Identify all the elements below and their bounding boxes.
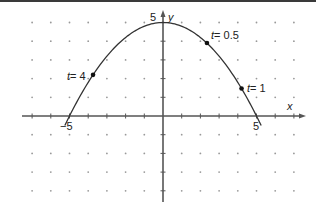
x-tick-label-neg5: −5 bbox=[60, 120, 73, 132]
t4-rest: = 4 bbox=[70, 70, 86, 82]
grid-dot bbox=[256, 171, 258, 173]
grid-dot bbox=[218, 134, 220, 136]
grid-dot bbox=[50, 190, 52, 192]
grid-dot bbox=[31, 171, 33, 173]
grid-dot bbox=[181, 134, 183, 136]
grid-dot bbox=[181, 153, 183, 155]
grid-dot bbox=[125, 22, 127, 24]
grid-dot bbox=[125, 59, 127, 61]
grid-dot bbox=[31, 59, 33, 61]
grid-dot bbox=[87, 78, 89, 80]
grid-dot bbox=[106, 22, 108, 24]
grid-dot bbox=[237, 153, 239, 155]
grid-dot bbox=[200, 96, 202, 98]
grid-dot bbox=[274, 22, 276, 24]
grid-dot bbox=[200, 153, 202, 155]
grid-dot bbox=[125, 96, 127, 98]
grid-dot bbox=[181, 59, 183, 61]
grid-dot bbox=[218, 78, 220, 80]
point-label-t4: t= 4 bbox=[67, 70, 86, 82]
grid-dot bbox=[50, 153, 52, 155]
grid-dot bbox=[106, 134, 108, 136]
grid-dot bbox=[50, 40, 52, 42]
grid-dot bbox=[200, 59, 202, 61]
grid-dot bbox=[106, 78, 108, 80]
grid-dot bbox=[69, 96, 71, 98]
grid-dot bbox=[106, 96, 108, 98]
point-label-t05: t= 0.5 bbox=[211, 29, 239, 41]
grid-dot bbox=[218, 171, 220, 173]
grid-dot bbox=[87, 40, 89, 42]
grid-dot bbox=[31, 96, 33, 98]
grid-dot bbox=[69, 171, 71, 173]
grid-dot bbox=[200, 40, 202, 42]
grid-dot bbox=[87, 22, 89, 24]
grid-dot bbox=[87, 171, 89, 173]
axes bbox=[22, 10, 306, 202]
grid-dot bbox=[31, 40, 33, 42]
grid-dot bbox=[181, 78, 183, 80]
grid-dot bbox=[69, 22, 71, 24]
grid-dot bbox=[218, 59, 220, 61]
grid-dot bbox=[293, 134, 295, 136]
grid-dot bbox=[274, 40, 276, 42]
grid-dot bbox=[31, 78, 33, 80]
grid-dot bbox=[181, 190, 183, 192]
grid-dot bbox=[143, 153, 145, 155]
grid-dot bbox=[50, 78, 52, 80]
grid-dot bbox=[237, 190, 239, 192]
grid-dot bbox=[87, 190, 89, 192]
grid-dot bbox=[237, 59, 239, 61]
grid-dot bbox=[256, 190, 258, 192]
grid-dot bbox=[218, 190, 220, 192]
grid-dot bbox=[106, 190, 108, 192]
grid-dot bbox=[293, 40, 295, 42]
grid-dot bbox=[87, 59, 89, 61]
grid-dot bbox=[293, 171, 295, 173]
grid-dot bbox=[237, 22, 239, 24]
grid-dot bbox=[274, 153, 276, 155]
grid-dot bbox=[50, 22, 52, 24]
grid-dot bbox=[237, 134, 239, 136]
grid-dot bbox=[50, 96, 52, 98]
grid-dot bbox=[256, 78, 258, 80]
grid-dot bbox=[143, 134, 145, 136]
grid-dot bbox=[125, 78, 127, 80]
grid-dot bbox=[125, 40, 127, 42]
grid-dot bbox=[31, 190, 33, 192]
y-axis-label: y bbox=[167, 11, 175, 23]
grid-dot bbox=[181, 171, 183, 173]
grid-dot bbox=[31, 134, 33, 136]
grid-dot bbox=[274, 190, 276, 192]
grid-dot bbox=[31, 22, 33, 24]
grid-dot bbox=[274, 59, 276, 61]
parametric-curve-chart: x y −5 5 5 t= 4 t= 0.5 t= 1 bbox=[0, 0, 316, 204]
grid-dot bbox=[50, 59, 52, 61]
grid-dot bbox=[218, 96, 220, 98]
grid-dot bbox=[125, 134, 127, 136]
grid-dot bbox=[200, 171, 202, 173]
grid-dot bbox=[69, 190, 71, 192]
point-marker bbox=[205, 41, 210, 46]
grid-dot bbox=[125, 171, 127, 173]
grid-dot bbox=[200, 22, 202, 24]
grid-dot bbox=[106, 59, 108, 61]
grid-dot bbox=[293, 153, 295, 155]
grid-dot bbox=[125, 153, 127, 155]
grid-dot bbox=[69, 59, 71, 61]
grid-dot bbox=[293, 59, 295, 61]
grid-dot bbox=[50, 171, 52, 173]
grid-dot bbox=[200, 78, 202, 80]
grid-dot bbox=[274, 96, 276, 98]
grid-dot bbox=[256, 96, 258, 98]
grid-dot bbox=[69, 153, 71, 155]
t05-rest: = 0.5 bbox=[214, 29, 239, 41]
grid-dot bbox=[106, 40, 108, 42]
grid-dot bbox=[237, 171, 239, 173]
t1-rest: = 1 bbox=[250, 82, 266, 94]
grid-dot bbox=[31, 153, 33, 155]
grid-dot bbox=[106, 153, 108, 155]
grid-dot bbox=[69, 134, 71, 136]
grid-dot bbox=[293, 190, 295, 192]
grid-dot bbox=[293, 78, 295, 80]
